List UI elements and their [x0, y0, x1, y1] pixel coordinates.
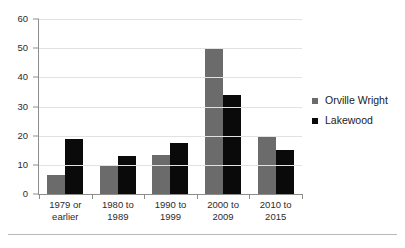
x-axis-separator-tick	[197, 194, 198, 199]
legend-swatch-lakewood	[312, 118, 318, 124]
bar	[276, 150, 294, 194]
x-axis-category-label: 1979 orearlier	[39, 199, 92, 222]
x-axis-category-label: 2010 to2015	[249, 199, 302, 222]
bar	[100, 165, 118, 194]
legend-swatch-orville-wright	[312, 98, 318, 104]
y-axis-tick-label: 10	[17, 160, 28, 170]
legend-item-orville-wright: Orville Wright	[312, 92, 388, 109]
bar	[223, 95, 241, 194]
gridline	[39, 77, 302, 78]
legend-label-orville-wright: Orville Wright	[325, 95, 388, 106]
x-axis-separator-tick	[302, 194, 303, 199]
chart-legend: Orville Wright Lakewood	[312, 92, 388, 132]
y-axis-tick-label: 0	[23, 189, 28, 199]
x-axis-separator-tick	[39, 194, 40, 199]
bar	[65, 139, 83, 194]
y-axis-labels: 0102030405060	[0, 0, 36, 248]
y-axis-tick-label: 50	[17, 43, 28, 53]
bar	[205, 48, 223, 194]
y-axis-tick-label: 60	[17, 14, 28, 24]
gridline	[39, 107, 302, 108]
chart-plot-wrapper: 0102030405060 1979 orearlier1980 to19891…	[0, 0, 405, 248]
y-axis-tick-label: 20	[17, 131, 28, 141]
y-axis-tick-label: 30	[17, 102, 28, 112]
gridline	[39, 165, 302, 166]
x-axis-separator-tick	[144, 194, 145, 199]
bar	[118, 156, 136, 194]
bar	[47, 175, 65, 194]
bar	[170, 143, 188, 194]
legend-label-lakewood: Lakewood	[325, 115, 373, 126]
x-axis-category-label: 1990 to1999	[144, 199, 197, 222]
bar-chart: 0102030405060 1979 orearlier1980 to19891…	[0, 0, 405, 248]
y-axis-tick-label: 40	[17, 73, 28, 83]
x-axis-separator-tick	[249, 194, 250, 199]
footer-divider	[8, 234, 397, 235]
gridline	[39, 136, 302, 137]
x-axis-category-label: 2000 to2009	[197, 199, 250, 222]
x-axis-line	[38, 194, 302, 195]
x-axis-category-label: 1980 to1989	[92, 199, 145, 222]
gridline	[39, 19, 302, 20]
bar	[152, 155, 170, 194]
legend-item-lakewood: Lakewood	[312, 112, 388, 129]
gridline	[39, 48, 302, 49]
x-axis-separator-tick	[92, 194, 93, 199]
